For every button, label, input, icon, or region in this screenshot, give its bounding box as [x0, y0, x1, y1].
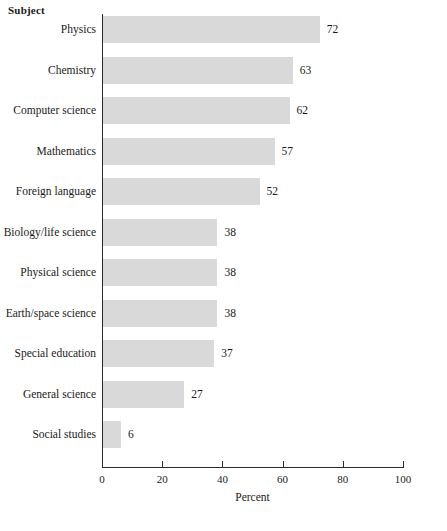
bar-category-label: Chemistry: [0, 57, 96, 84]
bar-row: Physics72: [0, 16, 447, 43]
bar-category-label: Mathematics: [0, 138, 96, 165]
bar: [103, 381, 184, 408]
bar-value-label: 63: [300, 57, 312, 84]
bar-category-label: Social studies: [0, 421, 96, 448]
plot-area: Physics72Chemistry63Computer science62Ma…: [0, 0, 447, 531]
bar-value-label: 38: [224, 259, 236, 286]
bar-category-label: Foreign language: [0, 178, 96, 205]
x-axis-tick-label: 100: [383, 473, 423, 485]
bar-category-label: General science: [0, 381, 96, 408]
bar: [103, 259, 217, 286]
bar-chart: Subject Physics72Chemistry63Computer sci…: [0, 0, 447, 531]
x-axis-tick-label: 80: [323, 473, 363, 485]
x-axis-tick: [403, 461, 404, 467]
bar: [103, 57, 293, 84]
bar-row: Earth/space science38: [0, 300, 447, 327]
bar-value-label: 38: [224, 219, 236, 246]
bar-category-label: Earth/space science: [0, 300, 96, 327]
x-axis-tick: [162, 461, 163, 467]
bar-row: Special education37: [0, 340, 447, 367]
bar-row: Physical science38: [0, 259, 447, 286]
bar-row: Chemistry63: [0, 57, 447, 84]
bar: [103, 97, 290, 124]
x-axis-line: [102, 467, 404, 468]
bar-value-label: 38: [224, 300, 236, 327]
bar-category-label: Special education: [0, 340, 96, 367]
x-axis-title: Percent: [193, 491, 313, 503]
x-axis-tick: [222, 461, 223, 467]
bar-category-label: Physical science: [0, 259, 96, 286]
x-axis-tick-label: 20: [142, 473, 182, 485]
bar-value-label: 52: [267, 178, 279, 205]
bar-value-label: 37: [221, 340, 233, 367]
x-axis-tick-label: 0: [82, 473, 122, 485]
bar: [103, 340, 214, 367]
bar-row: Computer science62: [0, 97, 447, 124]
bar: [103, 219, 217, 246]
bar-value-label: 57: [282, 138, 294, 165]
bar-row: Foreign language52: [0, 178, 447, 205]
bar-row: Social studies6: [0, 421, 447, 448]
bar-row: Biology/life science38: [0, 219, 447, 246]
x-axis-tick-label: 60: [263, 473, 303, 485]
x-axis-tick: [283, 461, 284, 467]
bar-row: General science27: [0, 381, 447, 408]
bar-value-label: 6: [128, 421, 134, 448]
x-axis-tick-label: 40: [202, 473, 242, 485]
x-axis-tick: [102, 461, 103, 467]
bar: [103, 138, 275, 165]
bar-value-label: 27: [191, 381, 203, 408]
bar-row: Mathematics57: [0, 138, 447, 165]
bar: [103, 300, 217, 327]
x-axis-tick: [343, 461, 344, 467]
bar: [103, 16, 320, 43]
bar-category-label: Computer science: [0, 97, 96, 124]
bar-category-label: Biology/life science: [0, 219, 96, 246]
bar: [103, 178, 260, 205]
bar-value-label: 72: [327, 16, 339, 43]
bar-category-label: Physics: [0, 16, 96, 43]
bar: [103, 421, 121, 448]
bar-value-label: 62: [297, 97, 309, 124]
